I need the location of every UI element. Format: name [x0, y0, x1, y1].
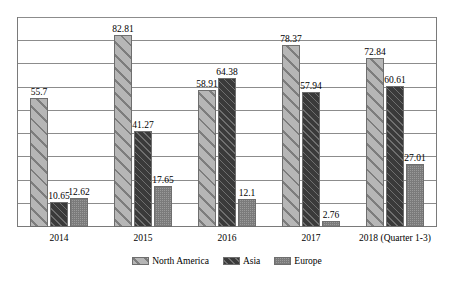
bar-europe-2014	[70, 198, 88, 227]
bar-asia-2018-quarter-1-3-	[386, 86, 404, 227]
bar-value-label: 57.94	[300, 81, 321, 91]
legend-label: Asia	[243, 256, 260, 266]
bar-europe-2018-quarter-1-3-	[406, 164, 424, 227]
plot-right-border	[436, 17, 437, 227]
bar-value-label: 82.81	[112, 24, 133, 34]
bar-north-america-2016	[198, 90, 216, 227]
legend-swatch-asia-icon	[223, 257, 240, 265]
x-axis-label-2018-quarter-1-3-: 2018 (Quarter 1-3)	[359, 233, 431, 243]
legend-swatch-europe-icon	[274, 257, 291, 265]
bar-value-label: 10.65	[48, 191, 69, 201]
gridline	[17, 17, 437, 18]
bar-asia-2017	[302, 92, 320, 227]
y-axis-line	[17, 17, 18, 227]
legend-swatch-north-america-icon	[132, 257, 149, 265]
bar-north-america-2014	[30, 98, 48, 227]
bar-north-america-2017	[282, 45, 300, 227]
bar-value-label: 58.91	[196, 79, 217, 89]
x-axis-label-2015: 2015	[134, 233, 153, 243]
legend-item-europe[interactable]: Europe	[274, 256, 321, 266]
legend-item-north-america[interactable]: North America	[132, 256, 209, 266]
bar-north-america-2018-quarter-1-3-	[366, 58, 384, 227]
bar-north-america-2015	[114, 35, 132, 227]
bar-value-label: 78.37	[280, 34, 301, 44]
bar-europe-2015	[154, 186, 172, 227]
bar-europe-2017	[322, 221, 340, 227]
bar-asia-2016	[218, 78, 236, 228]
bar-europe-2016	[238, 199, 256, 227]
bar-asia-2015	[134, 131, 152, 227]
bar-chart: 55.710.6512.6282.8141.2717.6558.9164.381…	[0, 0, 454, 282]
plot-area: 55.710.6512.6282.8141.2717.6558.9164.381…	[17, 17, 437, 227]
bar-value-label: 55.7	[31, 87, 48, 97]
bar-value-label: 27.01	[404, 153, 425, 163]
bar-value-label: 64.38	[216, 67, 237, 77]
x-axis-label-2014: 2014	[50, 233, 69, 243]
bar-value-label: 60.61	[384, 75, 405, 85]
x-axis-label-2016: 2016	[218, 233, 237, 243]
bar-value-label: 12.1	[239, 188, 256, 198]
bar-value-label: 72.84	[364, 47, 385, 57]
legend-label: Europe	[294, 256, 321, 266]
legend-label: North America	[152, 256, 209, 266]
bar-asia-2014	[50, 202, 68, 227]
gridline	[17, 40, 437, 41]
bar-value-label: 12.62	[68, 187, 89, 197]
chart-legend: North AmericaAsiaEurope	[0, 256, 454, 266]
bar-value-label: 2.76	[323, 210, 340, 220]
bar-value-label: 17.65	[152, 175, 173, 185]
bar-value-label: 41.27	[132, 120, 153, 130]
x-axis-label-2017: 2017	[302, 233, 321, 243]
legend-item-asia[interactable]: Asia	[223, 256, 260, 266]
